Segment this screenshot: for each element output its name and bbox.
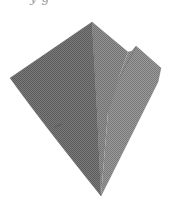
folded-paper-illustration xyxy=(0,0,171,205)
left-face xyxy=(10,22,101,196)
